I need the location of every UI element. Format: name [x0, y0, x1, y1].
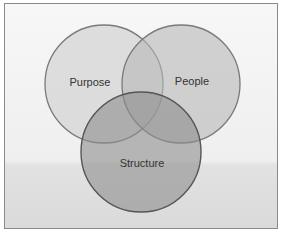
purpose-label: Purpose	[70, 76, 111, 88]
structure-label: Structure	[120, 157, 165, 169]
structure-circle	[81, 92, 201, 212]
venn-diagram: Purpose People Structure	[0, 0, 287, 238]
people-label: People	[175, 75, 209, 87]
